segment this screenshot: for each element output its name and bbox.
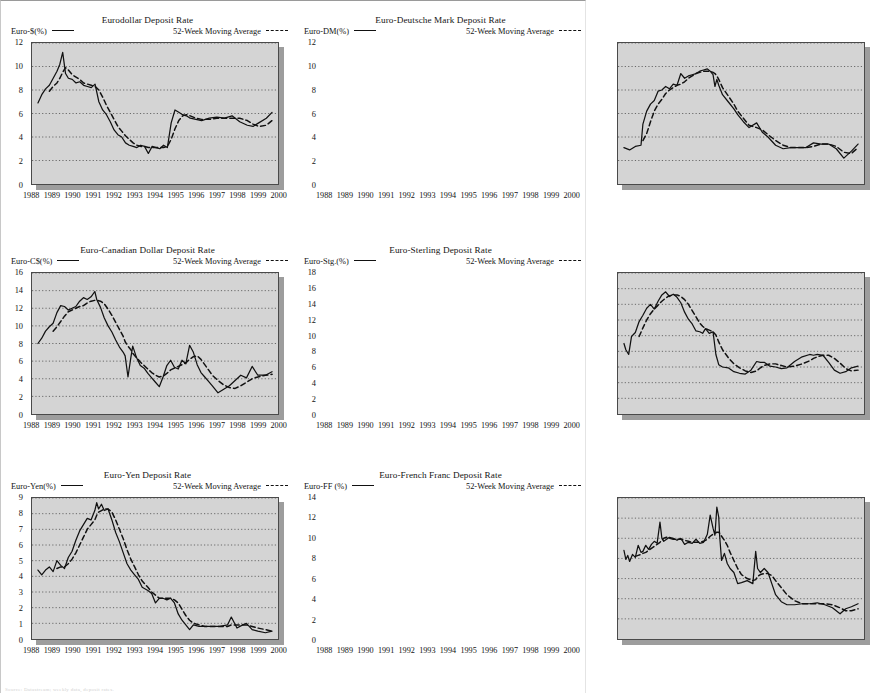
y-tick-label: 12 — [308, 513, 320, 522]
y-tick-label: 14 — [308, 493, 320, 502]
chart-title: Euro-French Franc Deposit Rate — [294, 470, 587, 480]
y-tick-label: 4 — [19, 375, 27, 384]
x-tick-label: 1992 — [399, 191, 415, 200]
series-line-moving-average — [49, 68, 272, 148]
x-tick-label: 1999 — [250, 646, 266, 655]
plot-area-wrapper — [617, 42, 865, 185]
y-tick-label: 14 — [15, 285, 27, 294]
x-tick-label: 1995 — [460, 191, 476, 200]
y-axis-ticks: 024681012 — [294, 42, 320, 185]
plot-area-wrapper — [617, 497, 865, 640]
x-tick-label: 1995 — [167, 191, 183, 200]
y-tick-label: 2 — [19, 157, 27, 166]
x-tick-label: 1992 — [106, 191, 122, 200]
y-tick-label: 16 — [308, 283, 320, 292]
chart-title: Eurodollar Deposit Rate — [1, 15, 294, 25]
y-axis-ticks: 0246810121416 — [1, 272, 27, 415]
y-tick-label: 4 — [312, 133, 320, 142]
series-line-moving-average — [57, 509, 272, 631]
legend-label-series1: Euro-DM(%) — [304, 27, 349, 36]
x-tick-label: 1992 — [399, 646, 415, 655]
chart-panel-euro-sterling: Euro-Sterling Deposit Rate Euro-Stg.(%) … — [294, 231, 587, 456]
x-tick-label: 1989 — [337, 421, 353, 430]
y-tick-label: 6 — [19, 357, 27, 366]
x-tick-label: 1997 — [502, 191, 518, 200]
legend-entry-series1: Euro-$(%) — [11, 27, 74, 36]
y-tick-label: 0 — [19, 181, 27, 190]
plot-area — [31, 272, 279, 415]
x-tick-label: 1990 — [357, 191, 373, 200]
y-tick-label: 2 — [312, 395, 320, 404]
plot-area-wrapper — [31, 497, 279, 640]
legend-entry-series1: Euro-DM(%) — [304, 27, 376, 36]
y-tick-label: 12 — [15, 38, 27, 47]
y-tick-label: 14 — [308, 299, 320, 308]
dashed-line-icon — [266, 260, 288, 261]
x-tick-label: 1996 — [481, 421, 497, 430]
x-tick-label: 1988 — [316, 421, 332, 430]
dashed-line-icon — [559, 260, 581, 261]
y-tick-label: 7 — [19, 524, 27, 533]
x-tick-label: 1993 — [126, 646, 142, 655]
x-tick-label: 1992 — [106, 421, 122, 430]
chart-grid: Eurodollar Deposit Rate Euro-$(%) 52-Wee… — [1, 1, 587, 684]
x-tick-label: 2000 — [564, 646, 580, 655]
legend-label-series2: 52-Week Moving Average — [466, 482, 554, 491]
plot-area — [617, 42, 865, 185]
plot-area-wrapper — [617, 272, 865, 415]
figure-footnote: Source: Datastream; weekly data, deposit… — [5, 687, 114, 692]
legend-entry-series1: Euro-Stg.(%) — [304, 257, 376, 266]
x-tick-label: 1991 — [85, 421, 101, 430]
solid-line-icon — [52, 30, 74, 31]
series-line-moving-average — [643, 71, 858, 153]
x-tick-label: 1999 — [543, 191, 559, 200]
solid-line-icon — [57, 260, 79, 261]
y-tick-label: 2 — [19, 393, 27, 402]
chart-panel-euro-dm: Euro-Deutsche Mark Deposit Rate Euro-DM(… — [294, 1, 587, 231]
x-tick-label: 2000 — [564, 191, 580, 200]
y-tick-label: 0 — [312, 636, 320, 645]
x-tick-label: 1996 — [481, 191, 497, 200]
x-tick-label: 1999 — [543, 421, 559, 430]
x-tick-label: 1990 — [357, 421, 373, 430]
x-tick-label: 1991 — [378, 421, 394, 430]
y-tick-label: 8 — [19, 508, 27, 517]
legend-label-series1: Euro-Stg.(%) — [304, 257, 349, 266]
chart-panel-euro-ff: Euro-French Franc Deposit Rate Euro-FF (… — [294, 456, 587, 684]
x-tick-label: 1990 — [357, 646, 373, 655]
legend-entry-series2: 52-Week Moving Average — [173, 482, 288, 491]
x-tick-label: 2000 — [271, 646, 287, 655]
x-tick-label: 1994 — [147, 191, 163, 200]
chart-legend: Euro-FF (%) 52-Week Moving Average — [300, 482, 583, 494]
x-tick-label: 1995 — [167, 421, 183, 430]
legend-entry-series1: Euro-FF (%) — [304, 482, 374, 491]
y-tick-label: 16 — [15, 268, 27, 277]
y-tick-label: 8 — [19, 339, 27, 348]
chart-title: Euro-Deutsche Mark Deposit Rate — [294, 15, 587, 25]
y-tick-label: 2 — [312, 615, 320, 624]
plot-area — [31, 497, 279, 640]
y-tick-label: 1 — [19, 620, 27, 629]
solid-line-icon — [354, 260, 376, 261]
y-tick-label: 6 — [19, 540, 27, 549]
legend-entry-series2: 52-Week Moving Average — [173, 257, 288, 266]
plot-area — [31, 42, 279, 185]
x-tick-label: 1994 — [440, 421, 456, 430]
x-tick-label: 1989 — [44, 646, 60, 655]
chart-title: Euro-Sterling Deposit Rate — [294, 245, 587, 255]
series-line-moving-average — [53, 300, 272, 388]
y-tick-label: 6 — [312, 574, 320, 583]
x-tick-label: 1993 — [419, 421, 435, 430]
plot-area — [617, 497, 865, 640]
series-line-rate — [38, 52, 272, 153]
x-tick-label: 1994 — [147, 646, 163, 655]
y-tick-label: 10 — [15, 61, 27, 70]
y-tick-label: 6 — [312, 363, 320, 372]
x-tick-label: 1993 — [419, 191, 435, 200]
series-line-rate — [38, 503, 272, 633]
y-tick-label: 9 — [19, 493, 27, 502]
x-tick-label: 1991 — [378, 646, 394, 655]
x-tick-label: 1997 — [209, 191, 225, 200]
legend-label-series2: 52-Week Moving Average — [173, 27, 261, 36]
x-tick-label: 1999 — [250, 421, 266, 430]
